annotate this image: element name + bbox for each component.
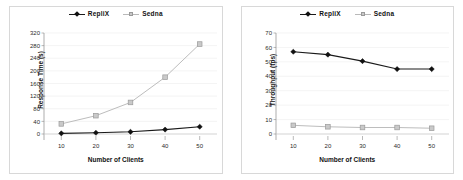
svg-text:240: 240 bbox=[30, 55, 41, 61]
svg-text:30: 30 bbox=[359, 143, 366, 149]
chart-panel-response-time: RepliX Sedna Response Time (s) 040801201… bbox=[0, 0, 232, 180]
svg-text:50: 50 bbox=[265, 59, 272, 65]
svg-text:40: 40 bbox=[162, 143, 169, 149]
svg-text:200: 200 bbox=[30, 68, 41, 74]
svg-text:30: 30 bbox=[265, 88, 272, 94]
svg-text:320: 320 bbox=[30, 30, 41, 36]
plot-area-left: 040801201602002402803201020304050 bbox=[0, 0, 232, 180]
svg-text:0: 0 bbox=[268, 131, 272, 137]
svg-text:10: 10 bbox=[289, 143, 296, 149]
svg-text:40: 40 bbox=[393, 143, 400, 149]
x-axis-title-right: Number of Clients bbox=[232, 156, 463, 163]
svg-text:20: 20 bbox=[324, 143, 331, 149]
svg-text:40: 40 bbox=[33, 119, 40, 125]
svg-text:50: 50 bbox=[196, 143, 203, 149]
chart-panel-throughput: RepliX Sedna Throughput (tps) 0102030405… bbox=[232, 0, 463, 180]
svg-text:20: 20 bbox=[93, 143, 100, 149]
svg-text:50: 50 bbox=[428, 143, 435, 149]
svg-text:60: 60 bbox=[265, 45, 272, 51]
figure-container: RepliX Sedna Response Time (s) 040801201… bbox=[0, 0, 463, 180]
svg-text:80: 80 bbox=[33, 106, 40, 112]
svg-text:160: 160 bbox=[30, 81, 41, 87]
plot-area-right: 0102030405060701020304050 bbox=[232, 0, 463, 180]
svg-text:120: 120 bbox=[30, 93, 41, 99]
svg-text:20: 20 bbox=[265, 102, 272, 108]
svg-text:280: 280 bbox=[30, 43, 41, 49]
svg-text:10: 10 bbox=[265, 117, 272, 123]
svg-text:30: 30 bbox=[127, 143, 134, 149]
svg-text:70: 70 bbox=[265, 30, 272, 36]
svg-text:40: 40 bbox=[265, 73, 272, 79]
svg-text:0: 0 bbox=[37, 131, 41, 137]
x-axis-title-left: Number of Clients bbox=[0, 156, 232, 163]
svg-text:10: 10 bbox=[58, 143, 65, 149]
